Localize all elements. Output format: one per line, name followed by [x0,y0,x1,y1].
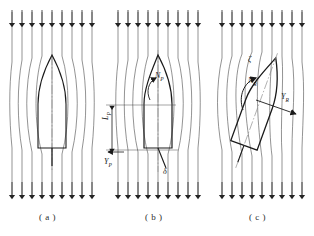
caption-panel-c: ( c ) [249,212,266,222]
figure-canvas [0,0,314,236]
panel-a-flow-arrows-top [12,10,92,24]
panel-c-hull-group [223,48,291,172]
panel-a-flow-arrows-bottom [12,182,92,196]
label-rudder-angle-delta: δ [163,167,167,176]
caption-panel-b: ( b ) [145,212,163,222]
panel-c-streamlines [218,12,304,196]
label-force-yp: YP [104,157,112,168]
label-force-yr: YR [281,92,289,103]
panel-a [10,10,95,196]
panel-b-flow-arrows-bottom [118,182,198,196]
panel-c-flow-arrows-top [222,10,302,24]
label-moment-np: NP [155,71,164,82]
label-length-lp: LP [101,112,112,120]
panel-c-flow-arrows-bottom [222,182,302,196]
caption-panel-a: ( a ) [39,212,56,222]
panel-b-flow-arrows-top [118,10,198,24]
panel-b-rudder [158,148,166,168]
panel-b [106,10,200,196]
panel-c-force-arrow [256,100,296,114]
label-moment-nr: NR [248,76,257,87]
panel-c [218,10,304,196]
label-drift-angle-zeta: ζ [248,55,251,64]
